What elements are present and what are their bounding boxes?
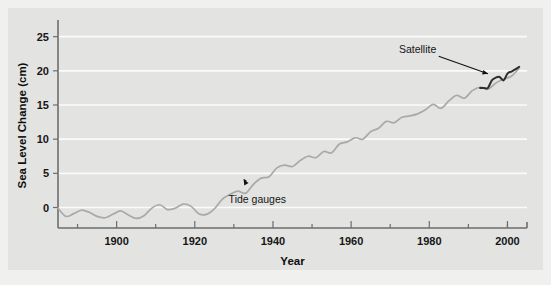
x-tick-label-2000: 2000 [495,235,519,247]
x-axis-title: Year [280,255,305,267]
annotation-arrowhead-tide-gauges [244,180,249,186]
x-tick-label-1960: 1960 [339,235,363,247]
series-line-tide-gauges [58,68,519,218]
x-tick-label-1940: 1940 [261,235,285,247]
figure-container: 0510152025190019201940196019802000YearSe… [0,0,551,285]
x-tick-label-1980: 1980 [417,235,441,247]
annotation-label-tide-gauges: Tide gauges [229,193,286,205]
y-tick-label-25: 25 [37,31,49,43]
x-tick-label-1900: 1900 [104,235,128,247]
y-tick-label-15: 15 [37,99,49,111]
y-axis-title: Sea Level Change (cm) [16,62,28,188]
sea-level-change-line-chart: 0510152025190019201940196019802000YearSe… [0,0,551,285]
y-tick-label-5: 5 [43,167,49,179]
chart-plot-area: 0510152025190019201940196019802000YearSe… [0,0,551,285]
y-tick-label-0: 0 [43,202,49,214]
annotation-label-satellite: Satellite [399,43,437,55]
y-tick-label-20: 20 [37,65,49,77]
y-tick-label-10: 10 [37,133,49,145]
x-tick-label-1920: 1920 [183,235,207,247]
series-line-satellite [480,67,519,89]
